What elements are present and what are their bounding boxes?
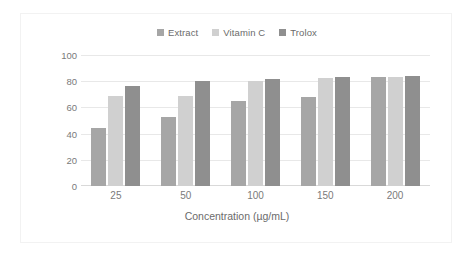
y-axis-tick-label: 80: [49, 76, 77, 87]
bar[interactable]: [91, 128, 106, 186]
legend-swatch-icon: [212, 29, 219, 36]
y-axis-tick-label: 40: [49, 128, 77, 139]
legend-item-label: Extract: [168, 27, 198, 38]
bar[interactable]: [388, 77, 403, 186]
bar-groups: [81, 55, 430, 186]
y-axis-tick-label: 100: [49, 50, 77, 61]
bar[interactable]: [161, 117, 176, 186]
bar[interactable]: [318, 78, 333, 186]
plot-area: [81, 55, 430, 186]
bar[interactable]: [265, 79, 280, 186]
bar[interactable]: [335, 77, 350, 186]
bar[interactable]: [248, 81, 263, 186]
x-axis-tick-label: 50: [151, 190, 221, 201]
legend-item-label: Vitamin C: [223, 27, 265, 38]
legend-swatch-icon: [157, 29, 164, 36]
bar[interactable]: [195, 81, 210, 186]
bar-group: [221, 55, 291, 186]
y-axis-tick-label: 20: [49, 154, 77, 165]
chart-legend: ExtractVitamin CTrolox: [21, 27, 453, 38]
y-axis-tick-label: 0: [49, 181, 77, 192]
bar[interactable]: [231, 101, 246, 186]
bar[interactable]: [405, 76, 420, 186]
bar[interactable]: [125, 86, 140, 186]
bar-group: [151, 55, 221, 186]
bar-group: [360, 55, 430, 186]
bar-group: [290, 55, 360, 186]
x-axis-tick-label: 100: [221, 190, 291, 201]
legend-item[interactable]: Vitamin C: [212, 27, 265, 38]
x-axis-tick-label: 150: [290, 190, 360, 201]
legend-item[interactable]: Extract: [157, 27, 198, 38]
bar[interactable]: [301, 97, 316, 186]
y-axis-tick-label: 60: [49, 102, 77, 113]
y-axis-tick-labels: 100806040200: [49, 55, 77, 186]
x-axis-tick-label: 25: [81, 190, 151, 201]
bar[interactable]: [371, 77, 386, 186]
bar[interactable]: [178, 96, 193, 186]
x-axis-tick-labels: 2550100150200: [81, 190, 430, 201]
x-axis-title: Concentration (µg/mL): [21, 210, 453, 222]
chart-figure: ExtractVitamin CTrolox DPPH inhibition (…: [20, 13, 452, 243]
legend-swatch-icon: [279, 29, 286, 36]
bar[interactable]: [108, 96, 123, 186]
legend-item-label: Trolox: [290, 27, 317, 38]
x-axis-tick-label: 200: [360, 190, 430, 201]
bar-group: [81, 55, 151, 186]
legend-item[interactable]: Trolox: [279, 27, 317, 38]
